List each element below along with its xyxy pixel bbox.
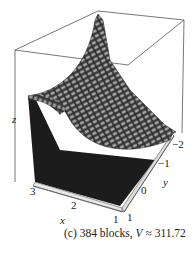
block-plot-3d	[0, 0, 195, 256]
y-tick-0: 0	[141, 185, 147, 196]
x-tick-3: 3	[30, 186, 36, 197]
y-axis-label: y	[163, 177, 168, 188]
caption-var: V	[136, 227, 143, 239]
caption-prefix: (c) 384 blocks,	[64, 227, 136, 239]
block-surface	[28, 14, 176, 149]
y-tick-minus-2: −2	[172, 139, 184, 150]
figure-caption: (c) 384 blocks, V ≈ 311.72	[64, 227, 186, 239]
x-tick-2: 2	[71, 200, 77, 211]
caption-suffix: ≈ 311.72	[143, 227, 186, 239]
x-tick-1: 1	[113, 214, 119, 225]
y-tick-minus-1: −1	[158, 158, 170, 169]
y-tick-1: 1	[127, 212, 133, 223]
x-axis-label: x	[60, 215, 65, 226]
z-axis-label: z	[12, 114, 16, 125]
